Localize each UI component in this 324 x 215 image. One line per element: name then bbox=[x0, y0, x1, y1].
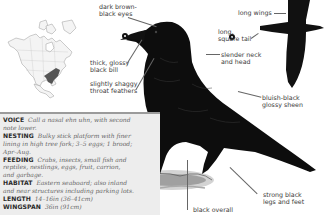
label-sheen: bluish-black glossy sheen bbox=[262, 94, 303, 109]
leader-neck bbox=[206, 54, 220, 55]
range-map bbox=[6, 18, 78, 100]
label-wings: long wings bbox=[238, 9, 272, 16]
info-habitat: HABITAT Eastern seaboard; also inland bbox=[3, 179, 157, 187]
info-voice: VOICE Call a nasal ehn uhn, with second bbox=[3, 116, 157, 124]
label-legs: strong black legs and feet bbox=[263, 191, 304, 206]
marker-perched-icon bbox=[122, 33, 128, 39]
label-throat: slightly shaggy throat feathers bbox=[90, 80, 138, 95]
leader-wings bbox=[274, 13, 286, 14]
info-wingspan: WINGSPAN 36in (91cm) bbox=[3, 203, 157, 211]
leader-overall bbox=[187, 160, 188, 210]
info-feeding: FEEDING Crabs, insects, small fish and bbox=[3, 156, 157, 164]
label-overall: black overall bbox=[193, 206, 233, 213]
species-info-box: VOICE Call a nasal ehn uhn, with second … bbox=[0, 112, 160, 215]
info-length: LENGTH 14–16in (36–41cm) bbox=[3, 195, 157, 203]
label-bill: thick, glossy black bill bbox=[90, 59, 129, 74]
label-tail: long, square tail bbox=[218, 28, 251, 43]
label-neck: slender neck and head bbox=[221, 51, 261, 66]
info-nesting: NESTING Bulky stick platform with finer bbox=[3, 132, 157, 140]
label-eyes: dark brown- black eyes bbox=[99, 3, 137, 18]
